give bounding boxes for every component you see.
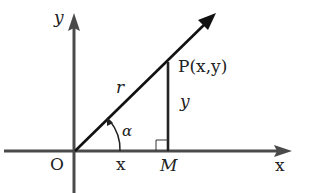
horizontal-segment-label: x	[116, 154, 126, 174]
right-angle-marker	[156, 140, 168, 151]
angle-arc	[110, 121, 120, 151]
point-p-label: P(x,y)	[178, 56, 227, 76]
ray-op	[75, 13, 216, 151]
origin-label: O	[50, 154, 64, 174]
x-axis	[4, 145, 292, 157]
vertical-segment-label: y	[179, 91, 190, 111]
angle-label: α	[122, 122, 132, 140]
radius-label: r	[116, 77, 125, 97]
foot-m-label: M	[159, 155, 178, 175]
x-axis-label: x	[275, 155, 285, 175]
y-axis	[68, 13, 80, 193]
y-axis-label: y	[53, 7, 64, 27]
polar-coordinate-diagram: y x O P(x,y) M r y x α	[0, 0, 309, 193]
